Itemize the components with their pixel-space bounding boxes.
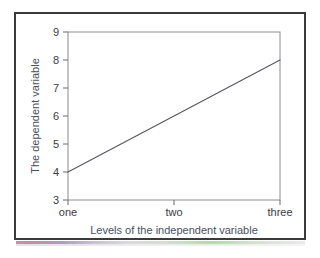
- y-tick-label: 5: [53, 138, 59, 150]
- y-tick-label: 3: [53, 194, 59, 206]
- y-tick-label: 9: [53, 26, 59, 38]
- line-chart: 9 8 7 6 5 4 3 one two three Levels of th…: [0, 0, 320, 258]
- x-axis-ticks: [68, 200, 280, 205]
- x-tick-label-one: one: [59, 206, 77, 218]
- x-tick-label-three: three: [267, 206, 292, 218]
- y-tick-label: 6: [53, 110, 59, 122]
- y-tick-label: 8: [53, 54, 59, 66]
- x-tick-label-two: two: [165, 206, 182, 218]
- figure-container: 9 8 7 6 5 4 3 one two three Levels of th…: [0, 0, 320, 258]
- x-axis-title: Levels of the independent variable: [90, 224, 258, 236]
- y-tick-label: 4: [53, 166, 59, 178]
- y-axis-title: The dependent variable: [29, 58, 41, 174]
- y-tick-label: 7: [53, 82, 59, 94]
- y-axis-ticks: [63, 32, 68, 200]
